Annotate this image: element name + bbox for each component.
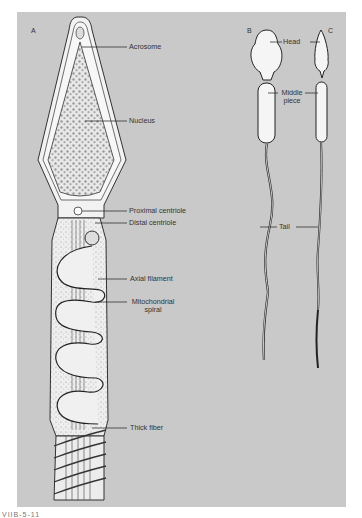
label-tail: Tail	[279, 223, 290, 231]
label-mitochondrial-spiral: Mitochondrial spiral	[128, 298, 178, 314]
label-acrosome: Acrosome	[129, 43, 161, 51]
panel-label-b: B	[247, 27, 252, 34]
panel-b-sperm	[251, 30, 282, 360]
panel-a-cell	[38, 17, 126, 500]
label-nucleus: Nucleus	[129, 117, 155, 125]
panel-c-sperm	[315, 30, 328, 368]
label-distal-centriole: Distal centriole	[129, 219, 176, 227]
label-middle-piece: Middle piece	[278, 89, 306, 105]
figure-caption-partial: VIIB-5-11	[2, 511, 40, 518]
panel-label-c: C	[328, 27, 333, 34]
sperm-diagram-illustration	[0, 0, 362, 518]
label-axial-filament: Axial filament	[130, 275, 173, 283]
label-thick-fiber: Thick fiber	[130, 424, 163, 432]
label-head: Head	[283, 38, 300, 46]
panel-label-a: A	[31, 27, 36, 34]
label-proximal-centriole: Proximal centriole	[129, 207, 186, 215]
